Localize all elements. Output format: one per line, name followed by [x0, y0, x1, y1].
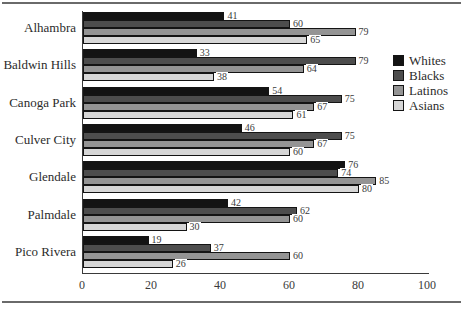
bar-whites-pico-rivera: [83, 236, 149, 244]
legend-item-blacks: Blacks: [393, 68, 448, 83]
category-label-alhambra: Alhambra: [0, 21, 76, 35]
category-label-baldwin-hills: Baldwin Hills: [0, 58, 76, 72]
legend-item-whites: Whites: [393, 53, 448, 68]
bar-latinos-baldwin-hills: [83, 65, 304, 73]
bar-value-label: 79: [358, 27, 370, 37]
legend-item-asians: Asians: [393, 98, 448, 113]
legend-swatch-asians: [393, 100, 404, 111]
bar-blacks-glendale: [83, 169, 338, 177]
legend-swatch-whites: [393, 55, 404, 66]
bar-value-label: 67: [316, 139, 328, 149]
category-label-culver-city: Culver City: [0, 133, 76, 147]
bar-chart: AlhambraBaldwin HillsCanoga ParkCulver C…: [0, 0, 463, 313]
bar-latinos-canoga-park: [83, 103, 314, 111]
bar-blacks-culver-city: [83, 132, 342, 140]
bar-whites-glendale: [83, 161, 345, 169]
x-tick-label-60: 60: [283, 278, 295, 293]
bar-whites-canoga-park: [83, 87, 269, 95]
category-label-palmdale: Palmdale: [0, 208, 76, 222]
bar-asians-culver-city: [83, 148, 290, 156]
bar-asians-baldwin-hills: [83, 73, 214, 81]
bar-value-label: 38: [216, 72, 228, 82]
bar-whites-baldwin-hills: [83, 49, 197, 57]
bar-asians-glendale: [83, 185, 359, 193]
legend-label-latinos: Latinos: [409, 84, 448, 97]
x-tick-label-100: 100: [418, 278, 436, 293]
bar-value-label: 64: [306, 64, 318, 74]
plot-area: 4160796533796438547567614675676076748580…: [82, 11, 429, 274]
bar-asians-canoga-park: [83, 111, 293, 119]
bar-whites-palmdale: [83, 199, 228, 207]
bar-asians-palmdale: [83, 223, 187, 231]
legend: WhitesBlacksLatinosAsians: [393, 53, 448, 113]
legend-swatch-latinos: [393, 85, 404, 96]
legend-label-blacks: Blacks: [409, 69, 444, 82]
bar-value-label: 75: [344, 94, 356, 104]
bar-value-label: 65: [309, 35, 321, 45]
bar-value-label: 67: [316, 102, 328, 112]
bar-blacks-palmdale: [83, 207, 297, 215]
bar-value-label: 79: [358, 56, 370, 66]
category-label-canoga-park: Canoga Park: [0, 96, 76, 110]
bar-asians-alhambra: [83, 36, 307, 44]
bar-asians-pico-rivera: [83, 260, 173, 268]
category-label-pico-rivera: Pico Rivera: [0, 245, 76, 259]
bar-blacks-canoga-park: [83, 95, 342, 103]
bar-value-label: 75: [344, 131, 356, 141]
bar-whites-alhambra: [83, 12, 224, 20]
x-tick-label-0: 0: [79, 278, 85, 293]
legend-item-latinos: Latinos: [393, 83, 448, 98]
bar-latinos-culver-city: [83, 140, 314, 148]
category-label-glendale: Glendale: [0, 170, 76, 184]
bar-latinos-palmdale: [83, 215, 290, 223]
x-tick-label-80: 80: [352, 278, 364, 293]
bar-value-label: 30: [189, 222, 201, 232]
legend-swatch-blacks: [393, 70, 404, 81]
bar-value-label: 61: [295, 110, 307, 120]
bar-value-label: 60: [292, 251, 304, 261]
bar-blacks-alhambra: [83, 20, 290, 28]
bar-value-label: 85: [378, 176, 390, 186]
bar-value-label: 60: [292, 214, 304, 224]
legend-label-asians: Asians: [409, 99, 444, 112]
x-tick-label-20: 20: [145, 278, 157, 293]
x-tick-label-40: 40: [214, 278, 226, 293]
bar-latinos-glendale: [83, 177, 376, 185]
bar-value-label: 60: [292, 147, 304, 157]
bar-blacks-pico-rivera: [83, 244, 211, 252]
legend-label-whites: Whites: [409, 54, 446, 67]
bar-value-label: 26: [175, 259, 187, 269]
bar-value-label: 80: [361, 184, 373, 194]
bar-whites-culver-city: [83, 124, 242, 132]
